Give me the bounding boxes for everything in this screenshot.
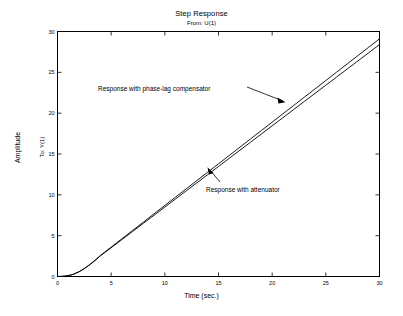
y-tick-label: 20: [48, 110, 54, 116]
plot-frame: [58, 32, 380, 277]
annotation-arrow-attenuator: [208, 167, 221, 182]
y-tick-label: 0: [51, 274, 54, 280]
y-tick-label: 30: [48, 29, 54, 35]
annotation-label-attenuator: Response with attenuator: [206, 186, 280, 193]
step-response-figure: Step Response From: U(1) Amplitude To: Y…: [0, 0, 403, 316]
y-tick-label: 10: [48, 192, 54, 198]
x-tick-label: 5: [110, 280, 113, 286]
y-axis-ticks: 051015202530: [48, 29, 379, 280]
curve-phase-lag-compensator: [58, 39, 380, 277]
x-tick-label: 30: [376, 280, 382, 286]
y-tick-label: 5: [51, 233, 54, 239]
curve-attenuator: [58, 45, 380, 277]
x-axis-ticks: 051015202530: [56, 32, 383, 286]
plot-canvas: 051015202530 051015202530: [0, 0, 403, 316]
annotation-label-compensator: Response with phase-lag compensator: [98, 85, 210, 92]
x-tick-label: 10: [162, 280, 168, 286]
annotation-arrow-compensator: [247, 87, 286, 104]
x-tick-label: 15: [215, 280, 221, 286]
y-tick-label: 15: [48, 151, 54, 157]
y-tick-label: 25: [48, 69, 54, 75]
x-tick-label: 0: [56, 280, 59, 286]
x-tick-label: 20: [269, 280, 275, 286]
x-tick-label: 25: [323, 280, 329, 286]
